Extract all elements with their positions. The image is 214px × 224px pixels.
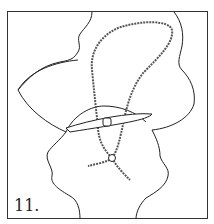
cord-knot xyxy=(109,155,116,162)
cord-loop xyxy=(92,22,172,158)
cord-tail-2 xyxy=(112,158,130,180)
hair-ornament-illustration xyxy=(0,0,214,224)
hair-outline xyxy=(18,12,92,219)
figure-number-label: 11. xyxy=(14,196,39,215)
cord-slider xyxy=(103,118,111,126)
